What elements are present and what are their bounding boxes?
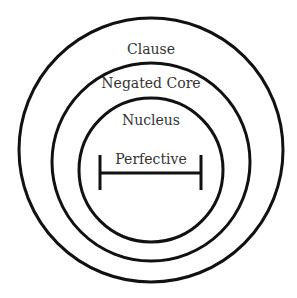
negated-core-label: Negated Core	[101, 75, 200, 91]
nested-layers-diagram: Clause Negated Core Nucleus Perfective	[0, 0, 297, 298]
perfective-label: Perfective	[115, 151, 186, 167]
nucleus-label: Nucleus	[122, 112, 180, 128]
clause-label: Clause	[127, 41, 175, 57]
